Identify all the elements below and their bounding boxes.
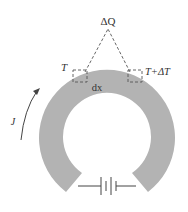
heat-triangle bbox=[85, 29, 130, 72]
dashed-line-right bbox=[108, 29, 130, 72]
temp-left-label: T bbox=[61, 61, 68, 73]
current-arrow bbox=[21, 88, 40, 140]
current-arrow-shaft bbox=[21, 91, 37, 140]
current-label: J bbox=[11, 116, 16, 127]
heat-label: ΔQ bbox=[100, 15, 115, 27]
ring-heat-diagram: ΔQ T T+ΔT dx J bbox=[0, 0, 188, 212]
dashed-line-left bbox=[85, 29, 108, 72]
element-label: dx bbox=[92, 82, 103, 93]
temp-right-label: T+ΔT bbox=[145, 66, 171, 77]
conducting-ring bbox=[39, 70, 175, 192]
arrowhead-icon bbox=[33, 88, 40, 95]
battery bbox=[78, 177, 136, 195]
